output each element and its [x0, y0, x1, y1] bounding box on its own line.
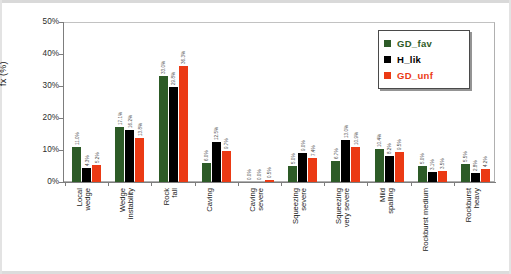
bar-value-label: 16.2%: [128, 115, 133, 128]
bar[interactable]: [331, 161, 340, 182]
bar[interactable]: [385, 156, 394, 182]
x-axis-category-label: Wedgeinstability: [119, 188, 136, 219]
category-label-line: severe: [301, 188, 309, 224]
bar[interactable]: [288, 166, 297, 182]
legend: GD_fav H_lik GD_unf: [378, 30, 470, 89]
y-axis-tick-label: 50%: [19, 18, 59, 26]
bar-value-label: 13.0%: [344, 125, 349, 138]
bar-group: 0.0%0.0%0.5%: [245, 22, 274, 182]
x-axis-line: [63, 182, 496, 183]
y-axis-tick-label: 0%: [19, 178, 59, 186]
category-label-line: instability: [128, 188, 136, 219]
bar-value-label: 4.3%: [85, 156, 90, 166]
y-axis-title: fx (%): [0, 61, 8, 86]
bar-value-label: 8.2%: [387, 143, 392, 153]
bar[interactable]: [72, 147, 81, 182]
bar[interactable]: [351, 147, 360, 182]
bar[interactable]: [395, 152, 404, 182]
category-label-line: Caving: [206, 188, 214, 212]
bar-value-label: 13.8%: [138, 123, 143, 136]
legend-swatch-gd-fav: [384, 40, 391, 47]
bar[interactable]: [265, 180, 274, 182]
x-axis-category-label: Rockburstheavy: [465, 188, 482, 222]
bar-group: 17.1%16.2%13.8%: [115, 22, 144, 182]
bar-value-label: 2.8%: [473, 161, 478, 171]
legend-swatch-h-lik: [384, 56, 391, 63]
bar[interactable]: [418, 166, 427, 182]
bar[interactable]: [481, 169, 490, 182]
bar[interactable]: [115, 127, 124, 182]
bar[interactable]: [179, 66, 188, 182]
bar-value-label: 17.1%: [118, 112, 123, 125]
x-axis-category-label: Squeezingvery severe: [335, 188, 352, 227]
bar[interactable]: [298, 153, 307, 182]
bar[interactable]: [308, 158, 317, 182]
bar-value-label: 0.5%: [267, 168, 272, 178]
bar[interactable]: [212, 142, 221, 182]
bar-value-label: 10.4%: [377, 134, 382, 147]
x-axis-tick-mark: [195, 182, 196, 186]
bar-group: 6.7%13.0%10.9%: [331, 22, 360, 182]
bar-value-label: 29.8%: [171, 72, 176, 85]
bar[interactable]: [169, 87, 178, 182]
bar-value-label: 7.4%: [311, 146, 316, 156]
x-axis-tick-mark: [108, 182, 109, 186]
x-axis-category-label: Caving: [206, 188, 214, 212]
bar-value-label: 3.1%: [430, 160, 435, 170]
bar[interactable]: [135, 138, 144, 182]
x-axis-category-label: Rockfall: [163, 188, 180, 205]
bar[interactable]: [428, 172, 437, 182]
bar-group: 11.0%4.3%5.2%: [72, 22, 101, 182]
bar-value-label: 9.7%: [224, 138, 229, 148]
bar-value-label: 5.5%: [463, 152, 468, 162]
bar[interactable]: [202, 163, 211, 182]
bar-value-label: 10.9%: [354, 132, 359, 145]
y-axis-tick-mark: [59, 182, 63, 183]
bar[interactable]: [438, 171, 447, 182]
bar[interactable]: [341, 140, 350, 182]
y-axis-tick-label: 20%: [19, 114, 59, 122]
bar-value-label: 9.5%: [397, 139, 402, 149]
x-axis-category-label: Rockburst medium: [422, 188, 430, 251]
bar[interactable]: [471, 173, 480, 182]
bar-value-label: 5.0%: [420, 154, 425, 164]
bar[interactable]: [82, 168, 91, 182]
legend-item-gd-fav[interactable]: GD_fav: [384, 35, 464, 51]
x-axis-tick-mark: [238, 182, 239, 186]
category-label-line: wedge: [85, 188, 93, 210]
x-axis-category-label: Cavingsevere: [249, 188, 266, 212]
category-label-line: fall: [171, 188, 179, 205]
bar-value-label: 6.0%: [204, 150, 209, 160]
bar-value-label: 4.2%: [483, 156, 488, 166]
bar-value-label: 36.3%: [181, 51, 186, 64]
category-label-line: very severe: [344, 188, 352, 227]
bar-group: 6.0%12.5%9.7%: [202, 22, 231, 182]
bar-value-label: 9.0%: [301, 141, 306, 151]
bar[interactable]: [375, 149, 384, 182]
bar[interactable]: [222, 151, 231, 182]
chart-page: fx (%) 0%10%20%30%40%50% 11.0%4.3%5.2%17…: [0, 0, 511, 274]
bar-value-label: 6.7%: [334, 148, 339, 158]
legend-label-gd-unf: GD_unf: [397, 70, 433, 81]
legend-label-h-lik: H_lik: [397, 54, 421, 65]
legend-item-gd-unf[interactable]: GD_unf: [384, 67, 464, 83]
bar-value-label: 3.5%: [440, 158, 445, 168]
y-axis-tick-label: 40%: [19, 50, 59, 58]
x-axis-tick-mark: [454, 182, 455, 186]
x-axis-tick-mark: [324, 182, 325, 186]
x-axis-category-label: Mildspalling: [379, 188, 396, 214]
bar[interactable]: [125, 130, 134, 182]
x-axis-tick-mark: [411, 182, 412, 186]
x-axis-category-label: Localwedge: [76, 188, 93, 210]
legend-item-h-lik[interactable]: H_lik: [384, 51, 464, 67]
scan-edge-top: [0, 0, 511, 3]
bar-value-label: 12.5%: [214, 127, 219, 140]
bar[interactable]: [92, 165, 101, 182]
bar-group: 5.0%9.0%7.4%: [288, 22, 317, 182]
bar[interactable]: [159, 76, 168, 182]
bar-group: 33.0%29.8%36.3%: [159, 22, 188, 182]
legend-swatch-gd-unf: [384, 72, 391, 79]
x-axis-tick-mark: [65, 182, 66, 186]
y-axis-tick-label: 30%: [19, 82, 59, 90]
bar[interactable]: [461, 164, 470, 182]
